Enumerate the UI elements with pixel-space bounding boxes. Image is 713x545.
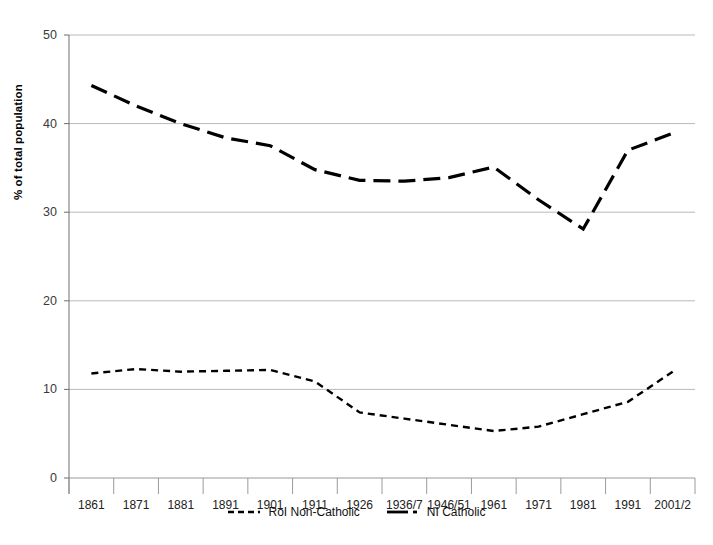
chart-plot-area [0, 0, 713, 545]
legend-item-ni-catholic: NI Catholic [386, 506, 486, 518]
legend-swatch-short-dash-icon [227, 507, 261, 517]
y-tick-label: 10 [23, 383, 57, 396]
y-tick-label: 20 [23, 295, 57, 308]
legend-label-ni-catholic: NI Catholic [427, 506, 486, 518]
y-tick-label: 50 [23, 29, 57, 42]
series-line-1 [91, 86, 672, 230]
y-tick-label: 40 [23, 118, 57, 131]
axis-lines [64, 35, 69, 494]
y-tick-label: 0 [23, 472, 57, 485]
chart-container: % of total population 01020304050 186118… [0, 0, 713, 545]
series-line-0 [91, 369, 672, 431]
y-tick-label: 30 [23, 206, 57, 219]
x-tick-marks [69, 478, 695, 494]
legend-label-roi-non-catholic: RoI Non-Catholic [268, 506, 359, 518]
legend-swatch-long-dash-icon [386, 507, 420, 517]
series-lines [91, 86, 672, 432]
chart-legend: RoI Non-Catholic NI Catholic [0, 506, 713, 518]
legend-item-roi-non-catholic: RoI Non-Catholic [227, 506, 359, 518]
gridlines [69, 35, 695, 478]
